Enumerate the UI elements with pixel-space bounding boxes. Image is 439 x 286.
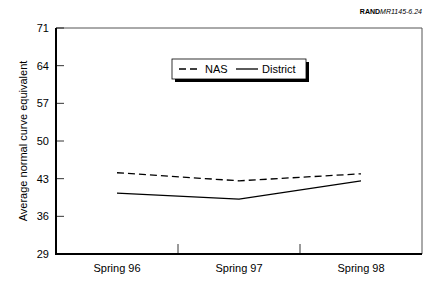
x-tick-label: Spring 96 — [93, 262, 140, 274]
x-tick-label: Spring 98 — [337, 262, 384, 274]
series-line-nas — [117, 173, 361, 181]
y-tick-label: 36 — [37, 210, 49, 222]
series-line-district — [117, 181, 361, 199]
line-chart: 29364350576471Spring 96Spring 97Spring 9… — [0, 0, 439, 286]
y-tick-label: 71 — [37, 22, 49, 34]
y-tick-label: 57 — [37, 97, 49, 109]
y-tick-label: 43 — [37, 173, 49, 185]
legend-label-district: District — [262, 63, 296, 75]
legend-label-nas: NAS — [205, 63, 228, 75]
y-tick-label: 64 — [37, 60, 49, 72]
x-tick-label: Spring 97 — [215, 262, 262, 274]
y-tick-label: 50 — [37, 135, 49, 147]
y-tick-label: 29 — [37, 248, 49, 260]
y-axis-label: Average normal curve equivalent — [17, 61, 29, 222]
